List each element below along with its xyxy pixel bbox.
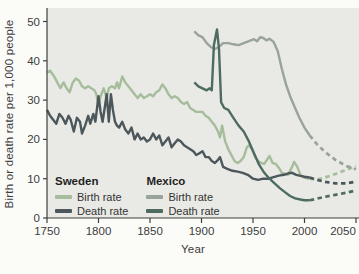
legend-item-label: Death rate [77, 205, 128, 217]
legend-item-sweden-birth: Birth rate [55, 190, 128, 204]
legend: Sweden Birth rate Death rate Mexico Birt… [55, 175, 220, 218]
legend-title-mexico: Mexico [146, 175, 219, 187]
legend-swatch-line-icon [146, 195, 163, 198]
y-tick-label: 0 [34, 212, 40, 224]
legend-title-sweden: Sweden [55, 175, 128, 187]
x-tick-label: 1900 [189, 225, 215, 237]
legend-swatch-line-icon [146, 209, 163, 212]
y-tick-label: 50 [27, 16, 40, 28]
y-tick-label: 20 [27, 133, 40, 145]
x-tick-label: 1950 [240, 225, 266, 237]
y-axis-label: Birth or death rate per 1,000 people [3, 0, 19, 229]
x-tick-label: 1800 [86, 225, 112, 237]
legend-item-mexico-death: Death rate [146, 204, 219, 218]
x-tick-label: 2000 [292, 225, 318, 237]
legend-group-mexico: Mexico Birth rate Death rate [146, 175, 219, 218]
y-tick-label: 10 [27, 173, 40, 185]
demographic-transition-chart: 010203040501750180018501900195020002050 … [0, 0, 359, 274]
y-tick-label: 40 [27, 55, 40, 67]
x-tick-label: 1850 [137, 225, 163, 237]
legend-item-label: Birth rate [77, 191, 122, 203]
legend-group-sweden: Sweden Birth rate Death rate [55, 175, 128, 218]
y-tick-label: 30 [27, 94, 40, 106]
legend-item-label: Birth rate [168, 191, 213, 203]
legend-swatch-line-icon [55, 209, 72, 212]
chart-canvas: 010203040501750180018501900195020002050 [0, 0, 359, 274]
legend-item-label: Death rate [168, 205, 219, 217]
x-tick-label: 2050 [330, 225, 356, 237]
legend-item-mexico-birth: Birth rate [146, 190, 219, 204]
x-tick-label: 1750 [34, 225, 60, 237]
x-axis-label: Year [27, 243, 359, 255]
legend-item-sweden-death: Death rate [55, 204, 128, 218]
legend-swatch-line-icon [55, 195, 72, 198]
